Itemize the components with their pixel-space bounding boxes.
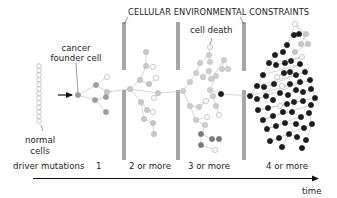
normal-cells-label-line1: normal bbox=[16, 136, 64, 145]
stage3-cell bbox=[221, 57, 226, 62]
stage4-cancer-cell bbox=[309, 121, 314, 126]
stage4-cancer-cell bbox=[284, 101, 289, 106]
stage3-cell bbox=[200, 74, 205, 79]
stage4-cancer-cell bbox=[261, 84, 266, 89]
stage4-cancer-cell bbox=[260, 117, 265, 122]
barrier-2-bottom bbox=[176, 90, 180, 160]
normal-cells-pointer bbox=[41, 125, 43, 131]
stage4-cancer-cell bbox=[280, 109, 285, 114]
founder-lineage-cell bbox=[103, 94, 108, 99]
stage-label-2: 2 or more bbox=[129, 162, 171, 171]
stage3-cell bbox=[197, 60, 202, 65]
stage3-cell bbox=[180, 88, 185, 93]
stage2-cell bbox=[104, 89, 109, 94]
stage4-cancer-cell bbox=[291, 32, 296, 37]
barrier-1-bottom bbox=[122, 90, 126, 160]
stage3-mutant-cell bbox=[209, 136, 214, 141]
stage4-cancer-cell bbox=[266, 60, 271, 65]
stage4-cancer-cell bbox=[247, 93, 252, 98]
stage3-cell bbox=[206, 52, 211, 57]
lineage-link bbox=[107, 89, 130, 92]
stage4-cancer-cell bbox=[264, 126, 269, 131]
normal-cell bbox=[37, 110, 42, 115]
normal-cell bbox=[37, 105, 42, 110]
stage3-mutant-cell bbox=[216, 136, 221, 141]
stage3-cell bbox=[206, 68, 211, 73]
stage3-cell bbox=[207, 59, 212, 64]
stage4-cancer-cell bbox=[270, 113, 275, 118]
stage2-cell bbox=[305, 41, 310, 46]
time-axis-label: time bbox=[302, 187, 321, 196]
stage2-cell bbox=[150, 120, 155, 125]
barrier-3-top bbox=[242, 22, 246, 71]
founder-lineage-cell bbox=[93, 82, 98, 87]
stage4-cancer-cell bbox=[308, 86, 313, 91]
stage4-cancer-cell bbox=[279, 144, 284, 149]
stage3-cell bbox=[202, 122, 207, 127]
stage4-cancer-cell bbox=[302, 69, 307, 74]
stage4-cancer-cell bbox=[271, 81, 276, 86]
normal-cells-column bbox=[37, 64, 42, 124]
stage-label-4: 4 or more bbox=[266, 162, 308, 171]
stage4-cancer-cell bbox=[287, 81, 292, 86]
cell-death-label: cell death bbox=[190, 26, 232, 35]
cancer-founder-label-line1: cancer bbox=[44, 44, 108, 53]
stage2-cell bbox=[143, 63, 148, 68]
diagram-title: CELLULAR ENVIRONMENTAL CONSTRAINTS bbox=[128, 8, 309, 16]
founder-lineage-cell bbox=[92, 97, 97, 102]
dead-cell bbox=[216, 112, 221, 117]
stage4-cancer-cell bbox=[270, 97, 275, 102]
stage2-cell bbox=[137, 77, 142, 82]
stage4-cancer-cell bbox=[263, 93, 268, 98]
normal-cells-label-line2: cells bbox=[16, 147, 64, 156]
stage3-cell bbox=[219, 66, 224, 71]
stage3-mutant-cell bbox=[198, 131, 203, 136]
barrier-3-bottom bbox=[242, 90, 246, 160]
stage-label-1: 1 bbox=[96, 162, 101, 171]
dead-cell bbox=[299, 54, 304, 59]
normal-cell bbox=[37, 87, 42, 92]
stage4-cancer-cell bbox=[291, 99, 296, 104]
stage4-cancer-cell bbox=[260, 72, 265, 77]
stage3-cell bbox=[187, 103, 192, 108]
founder-pointer bbox=[76, 63, 78, 93]
stage4-cancer-cell bbox=[307, 77, 312, 82]
dead-cell bbox=[279, 83, 284, 88]
stage4-cancer-cell bbox=[273, 62, 278, 67]
stage2-cell bbox=[155, 90, 160, 95]
stage3-cell bbox=[213, 73, 218, 78]
stage4-cancer-cell bbox=[285, 92, 290, 97]
stage3-cell bbox=[208, 76, 213, 81]
cell-death-pointer bbox=[210, 38, 212, 45]
stage4-cancer-cell bbox=[254, 96, 259, 101]
stage3-mutant-cell bbox=[198, 142, 203, 147]
stage4-cancer-cell bbox=[280, 49, 285, 54]
stage4-cancer-cell bbox=[303, 137, 308, 142]
stage4-cancer-cell bbox=[282, 60, 287, 65]
stage4-cancer-cell bbox=[255, 107, 260, 112]
dead-cell bbox=[292, 21, 297, 26]
stage4-cancer-cell bbox=[282, 120, 287, 125]
lineage-link bbox=[130, 89, 158, 93]
stage4-cancer-cell bbox=[265, 105, 270, 110]
normal-cell bbox=[37, 64, 42, 69]
dead-cell bbox=[153, 75, 158, 80]
barrier-2-top bbox=[176, 22, 180, 70]
stage2-cell bbox=[141, 116, 146, 121]
stage4-cancer-cell bbox=[289, 109, 294, 114]
stage2-cell bbox=[127, 86, 132, 91]
normal-cell bbox=[37, 119, 42, 124]
dead-cell bbox=[274, 74, 279, 79]
stage4-cancer-cell bbox=[284, 42, 289, 47]
dead-cell bbox=[207, 44, 212, 49]
normal-cell bbox=[37, 101, 42, 106]
stage2-cell bbox=[146, 81, 151, 86]
stage4-cancer-cell bbox=[293, 87, 298, 92]
cancer-founder-label-line2: founder cell bbox=[44, 54, 108, 63]
stage4-cancer-cell bbox=[273, 123, 278, 128]
dead-cell bbox=[150, 109, 155, 114]
stage2-cell bbox=[144, 107, 149, 112]
stage2-cell bbox=[138, 99, 143, 104]
stage4-cancer-cell bbox=[281, 70, 286, 75]
stage4-cancer-cell bbox=[288, 58, 293, 63]
